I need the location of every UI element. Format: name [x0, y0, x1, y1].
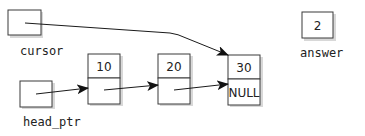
node-20-link-cell — [158, 78, 190, 104]
node-30-null-link: NULL — [228, 86, 259, 100]
answer-value: 2 — [314, 19, 322, 33]
answer-variable: 2 answer — [300, 12, 343, 60]
head-ptr-label: head_ptr — [23, 115, 81, 129]
node-20: 20 — [158, 54, 193, 106]
node-10: 10 — [88, 54, 123, 106]
answer-label: answer — [300, 46, 343, 60]
cursor-box — [8, 10, 41, 35]
linked-list-diagram: cursor head_ptr 2 answer 10 20 30 NULL — [0, 0, 365, 136]
node-20-data: 20 — [166, 60, 181, 74]
cursor-variable: cursor — [8, 10, 63, 58]
node-30-data: 30 — [236, 61, 251, 75]
node-30: 30 NULL — [228, 55, 263, 107]
cursor-label: cursor — [20, 44, 63, 58]
node-10-data: 10 — [96, 60, 111, 74]
head-ptr-variable: head_ptr — [20, 81, 81, 129]
node-10-link-cell — [88, 78, 120, 104]
